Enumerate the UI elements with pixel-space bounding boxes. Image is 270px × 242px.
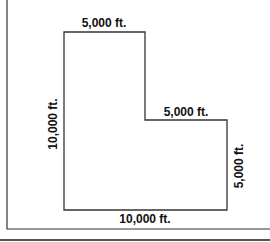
label-inner-step: 5,000 ft. (164, 105, 209, 119)
label-right: 5,000 ft. (232, 144, 246, 189)
label-left: 10,000 ft. (46, 98, 60, 149)
label-bottom: 10,000 ft. (119, 212, 170, 226)
label-top: 5,000 ft. (82, 16, 127, 30)
parcel-diagram: 5,000 ft. 5,000 ft. 10,000 ft. 10,000 ft… (0, 0, 270, 242)
parcel-outline (64, 32, 227, 210)
